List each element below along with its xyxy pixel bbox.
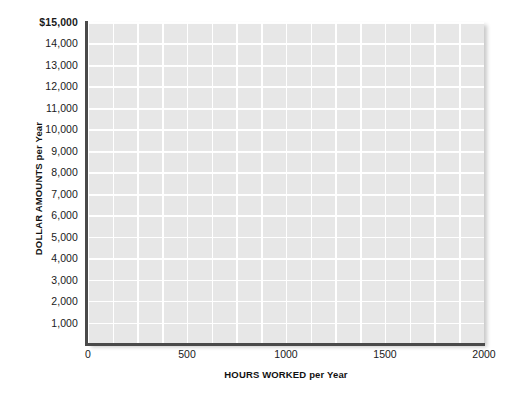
vertical-gridlines (88, 22, 484, 344)
x-tick-label: 1500 (373, 349, 396, 360)
x-axis-title: HOURS WORKED per Year (88, 369, 484, 380)
y-axis-title: DOLLAR AMOUNTS per Year (33, 89, 44, 289)
y-tick-label: 2,000 (0, 296, 82, 307)
y-tick-label: $15,000 (0, 17, 82, 28)
x-axis-line (85, 343, 485, 346)
chart-figure: $15,00014,00013,00012,00011,00010,0009,0… (0, 0, 510, 399)
y-tick-label: 1,000 (0, 318, 82, 329)
x-tick-label: 2000 (472, 349, 495, 360)
plot-area (88, 22, 484, 344)
x-tick-label: 1000 (274, 349, 297, 360)
horizontal-major-gridlines (88, 22, 484, 344)
y-tick-label: 14,000 (0, 38, 82, 49)
x-tick-label: 500 (178, 349, 196, 360)
y-axis-line (85, 21, 88, 346)
horizontal-gridlines (88, 22, 484, 344)
x-tick-label: 0 (85, 349, 91, 360)
y-tick-label: 13,000 (0, 60, 82, 71)
